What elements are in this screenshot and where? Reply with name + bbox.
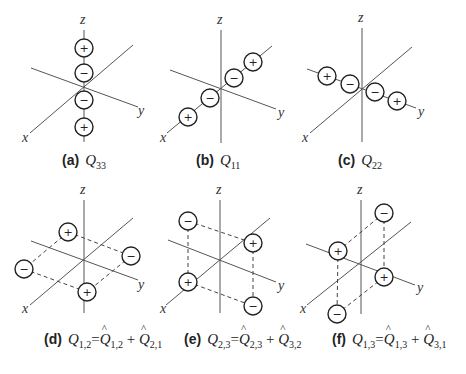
z-axis-label: z (215, 182, 222, 197)
panel-e: xyz−++− (159, 182, 285, 316)
svg-text:−: − (79, 94, 88, 107)
svg-text:+: + (183, 276, 192, 289)
svg-text:+: + (82, 286, 91, 299)
positive-charge-icon: + (329, 242, 347, 260)
svg-text:+: + (333, 245, 342, 258)
svg-text:+: + (248, 237, 257, 250)
svg-text:+: + (392, 95, 401, 108)
positive-charge-icon: + (75, 118, 93, 136)
y-axis-label: y (415, 280, 424, 295)
caption-b: (b)Q11 (196, 152, 240, 171)
svg-text:−: − (229, 72, 238, 85)
x-axis-label: x (159, 301, 167, 316)
positive-charge-icon: + (78, 283, 96, 301)
caption-c: (c)Q22 (338, 152, 382, 171)
svg-text:−: − (205, 92, 214, 105)
svg-text:−: − (332, 308, 341, 321)
caption-f: (f)Q1,3=Q1,3 + Q3,1 (332, 331, 446, 350)
x-axis (310, 47, 412, 133)
panel-c: xyz+−−+ (301, 10, 425, 145)
negative-charge-icon: − (328, 305, 346, 323)
caption-d: (d)Q1,2=Q1,2 + Q2,1 (44, 331, 162, 350)
negative-charge-icon: − (341, 75, 359, 93)
caption-tag: (b) (196, 152, 214, 168)
negative-charge-icon: − (179, 212, 197, 230)
svg-text:−: − (248, 300, 257, 313)
caption-tag: (a) (62, 152, 79, 168)
z-axis-label: z (79, 182, 86, 197)
negative-charge-icon: − (75, 91, 93, 109)
caption-a: (a)Q33 (62, 152, 106, 171)
y-axis (170, 70, 276, 109)
svg-text:−: − (126, 250, 135, 263)
x-axis-label: x (299, 301, 307, 316)
svg-text:+: + (183, 111, 192, 124)
x-axis-label: x (301, 130, 309, 145)
negative-charge-icon: − (225, 69, 243, 87)
panel-a: xyz+−−+ (21, 12, 145, 145)
negative-charge-icon: − (244, 297, 262, 315)
svg-text:−: − (79, 67, 88, 80)
y-axis-label: y (276, 278, 285, 293)
x-axis-label: x (159, 130, 167, 145)
positive-charge-icon: + (244, 53, 262, 71)
negative-charge-icon: − (122, 247, 140, 265)
positive-charge-icon: + (388, 92, 406, 110)
z-axis-label: z (79, 12, 86, 27)
svg-text:+: + (248, 56, 257, 69)
dashed-connector (24, 269, 87, 292)
z-axis-label: z (357, 10, 364, 25)
positive-charge-icon: + (179, 108, 197, 126)
positive-charge-icon: + (75, 39, 93, 57)
positive-charge-icon: + (375, 268, 393, 286)
positive-charge-icon: + (179, 273, 197, 291)
negative-charge-icon: − (375, 204, 393, 222)
negative-charge-icon: − (201, 89, 219, 107)
svg-text:+: + (79, 42, 88, 55)
negative-charge-icon: − (366, 83, 384, 101)
svg-text:−: − (370, 86, 379, 99)
svg-text:−: − (379, 207, 388, 220)
x-axis-label: x (21, 130, 29, 145)
panel-f: xyz−++− (299, 182, 424, 323)
positive-charge-icon: + (318, 67, 336, 85)
svg-text:+: + (63, 226, 72, 239)
y-axis-label: y (136, 103, 145, 118)
dashed-connector (68, 232, 131, 256)
svg-text:−: − (345, 78, 354, 91)
x-axis-label: x (21, 301, 29, 316)
z-axis-label: z (216, 12, 223, 27)
svg-text:−: − (183, 215, 192, 228)
y-axis-label: y (416, 104, 425, 119)
caption-e: (e)Q2,3=Q2,3 + Q3,2 (184, 331, 302, 350)
svg-text:+: + (379, 271, 388, 284)
y-axis-label: y (276, 105, 285, 120)
positive-charge-icon: + (244, 234, 262, 252)
negative-charge-icon: − (75, 64, 93, 82)
svg-text:−: − (19, 263, 28, 276)
z-axis-label: z (356, 182, 363, 197)
quadrupole-figure: xyz+−−+xyz+−−+xyz+−−+xyz+−−+xyz−++−xyz−+… (0, 0, 466, 374)
positive-charge-icon: + (59, 223, 77, 241)
caption-tag: (c) (338, 152, 355, 168)
y-axis-label: y (136, 277, 145, 292)
negative-charge-icon: − (15, 260, 33, 278)
svg-text:+: + (322, 70, 331, 83)
panel-d: xyz+−−+ (15, 182, 145, 316)
svg-text:+: + (79, 121, 88, 134)
panel-b: xyz+−−+ (159, 12, 285, 145)
